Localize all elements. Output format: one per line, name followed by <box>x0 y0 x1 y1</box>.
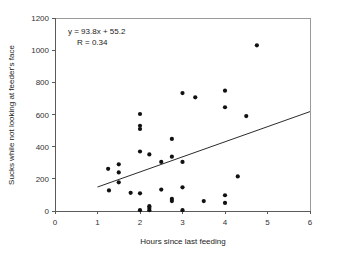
y-tick-label: 400 <box>36 143 50 152</box>
y-tick-label: 600 <box>36 111 50 120</box>
data-point <box>193 95 197 99</box>
data-point <box>117 180 121 184</box>
x-tick-label: 3 <box>180 218 185 227</box>
correlation-label: R = 0.34 <box>77 38 108 47</box>
regression-equation-label: y = 93.8x + 55.2 <box>68 27 126 36</box>
x-tick-label: 2 <box>138 218 143 227</box>
y-tick-label: 800 <box>36 78 50 87</box>
data-point <box>159 160 163 164</box>
y-axis-tick-labels: 020040060080010001200 <box>31 14 49 216</box>
data-point <box>180 185 184 189</box>
data-point <box>180 91 184 95</box>
y-axis-title: Sucks while not looking at feeder's face <box>7 45 16 185</box>
data-point <box>170 199 174 203</box>
y-tick-label: 1200 <box>31 14 49 23</box>
x-tick-label: 5 <box>265 218 270 227</box>
data-point <box>223 89 227 93</box>
data-point <box>255 43 259 47</box>
chart-canvas: 020040060080010001200 0123456 Hours sinc… <box>0 0 337 256</box>
x-axis-tick-labels: 0123456 <box>53 218 313 227</box>
data-point <box>159 188 163 192</box>
data-point <box>147 152 151 156</box>
y-tick-label: 0 <box>45 207 50 216</box>
data-points-group <box>106 43 259 212</box>
data-point <box>138 149 142 153</box>
data-point <box>138 191 142 195</box>
data-point <box>138 112 142 116</box>
data-point <box>236 174 240 178</box>
data-point <box>223 193 227 197</box>
y-tick-label: 1000 <box>31 46 49 55</box>
scatter-chart-figure: 020040060080010001200 0123456 Hours sinc… <box>0 0 337 256</box>
data-point <box>170 155 174 159</box>
data-point <box>107 188 111 192</box>
data-point <box>138 208 142 212</box>
x-tick-label: 0 <box>53 218 58 227</box>
data-point <box>117 170 121 174</box>
x-axis-title: Hours since last feeding <box>140 237 225 246</box>
data-point <box>117 162 121 166</box>
data-point <box>106 167 110 171</box>
data-point <box>180 160 184 164</box>
data-point <box>223 201 227 205</box>
data-point <box>147 208 151 212</box>
data-point <box>223 105 227 109</box>
x-tick-label: 1 <box>95 218 100 227</box>
data-point <box>129 191 133 195</box>
data-point <box>244 114 248 118</box>
data-point <box>202 199 206 203</box>
data-point <box>180 208 184 212</box>
x-tick-label: 6 <box>308 218 313 227</box>
y-tick-label: 200 <box>36 175 50 184</box>
regression-trend-line <box>98 112 311 187</box>
data-point <box>138 127 142 131</box>
data-point <box>170 137 174 141</box>
x-tick-label: 4 <box>223 218 228 227</box>
